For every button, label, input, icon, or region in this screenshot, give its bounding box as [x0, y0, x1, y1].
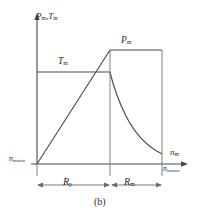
rp-subscript: p — [69, 180, 72, 187]
y-axis-label: Pm,Tm — [36, 12, 58, 21]
power-ramp — [37, 50, 110, 164]
range-rm-dimension — [111, 183, 162, 188]
nmmax-subscript: mmax — [167, 168, 180, 173]
torque-curve-label: Tm — [58, 57, 68, 67]
power-curve-group — [37, 50, 162, 164]
range-rp-label: Rp — [63, 177, 72, 187]
power-curve-label: Pm — [121, 36, 131, 46]
nm-symbol: n — [170, 147, 175, 157]
rm-left-arrowhead — [111, 183, 117, 188]
y-axis-label-sub-p: m — [42, 15, 46, 21]
rp-right-arrowhead — [104, 183, 110, 188]
x-axis-arrowhead — [181, 161, 188, 166]
range-rp-dimension — [37, 183, 110, 188]
boundary-lines-group — [37, 50, 162, 176]
power-subscript: m — [127, 39, 132, 45]
diagram-canvas — [0, 0, 212, 216]
torque-decay — [110, 72, 162, 154]
nm-subscript: m — [175, 151, 179, 157]
y-axis-label-sub-t: m — [53, 15, 57, 21]
torque-curve-group — [37, 72, 162, 154]
power-symbol: P — [121, 35, 127, 45]
rp-left-arrowhead — [37, 183, 43, 188]
nmmin-subscript: mmin — [13, 158, 25, 163]
x-axis-origin-tick-label: nmmin — [9, 155, 25, 163]
x-axis-label: nm — [170, 148, 179, 157]
axes-group — [31, 13, 188, 167]
figure-caption: (b) — [94, 197, 106, 207]
x-axis-max-tick-label: nmmax — [163, 165, 180, 173]
torque-subscript: m — [63, 60, 68, 66]
figure-container: Pm,Tm Tm Pm nmmin nm nmmax Rp Rm (b) — [0, 0, 212, 216]
range-rm-label: Rm — [124, 177, 135, 187]
rm-subscript: m — [130, 180, 135, 187]
rm-right-arrowhead — [156, 183, 162, 188]
